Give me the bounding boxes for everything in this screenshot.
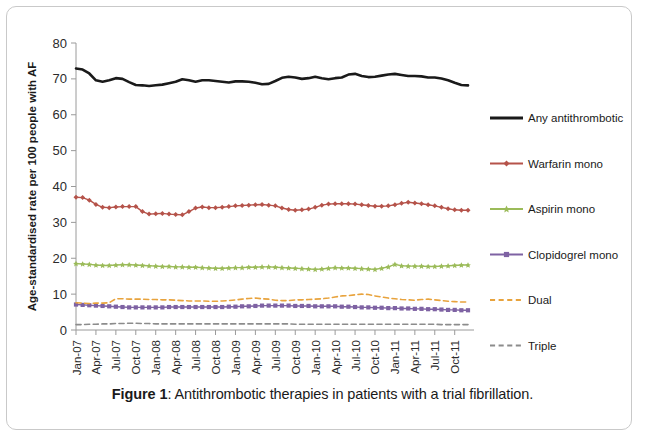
series-marker (273, 203, 278, 208)
series-marker (379, 204, 384, 209)
series-marker (213, 205, 218, 210)
series-marker (292, 265, 298, 271)
series-marker (86, 262, 92, 268)
series-marker (260, 304, 264, 308)
legend-marker (504, 252, 509, 257)
x-tick-label: Oct-08 (210, 340, 222, 375)
figure-caption-label: Figure 1 (112, 386, 168, 402)
series-marker (113, 262, 119, 268)
series-marker (412, 263, 418, 269)
series-marker (200, 204, 205, 209)
legend-label-aspirin-mono: Aspirin mono (528, 203, 595, 215)
legend-label-clopidogrel-mono: Clopidogrel mono (528, 249, 618, 261)
series-marker (180, 264, 186, 270)
series-marker (299, 266, 305, 272)
y-tick-label: 20 (53, 251, 67, 266)
series-marker (339, 201, 344, 206)
series-marker (74, 195, 79, 200)
series-marker (153, 263, 159, 269)
series-marker (459, 208, 464, 213)
y-tick-label: 10 (53, 287, 67, 302)
y-tick-label: 80 (53, 36, 67, 51)
series-marker (452, 207, 457, 212)
series-marker (100, 263, 106, 269)
series-marker (266, 264, 272, 270)
series-line-any-antithrombotic (76, 68, 468, 86)
x-tick-label: Jan-08 (150, 340, 162, 375)
series-marker (406, 200, 411, 205)
series-marker (107, 205, 112, 210)
series-marker (220, 305, 224, 309)
series-marker (140, 305, 144, 309)
series-marker (313, 304, 317, 308)
series-marker (306, 304, 310, 308)
series-marker (459, 262, 465, 268)
series-marker (147, 212, 152, 217)
series-marker (406, 306, 410, 310)
series-marker (207, 305, 211, 309)
series-marker (267, 304, 271, 308)
series-marker (426, 307, 430, 311)
series-marker (246, 203, 251, 208)
series-line-triple (76, 323, 468, 324)
x-tick-label: Jul-10 (350, 340, 362, 371)
x-tick-label: Apr-11 (409, 340, 421, 374)
series-marker (193, 305, 197, 309)
x-tick-label: Oct-07 (130, 340, 142, 375)
series-marker (154, 305, 158, 309)
series-marker (240, 203, 245, 208)
series-marker (153, 211, 158, 216)
series-marker (200, 305, 204, 309)
series-marker (233, 203, 238, 208)
series-marker (113, 204, 118, 209)
series-marker (293, 304, 297, 308)
series-marker (220, 205, 225, 210)
series-marker (146, 263, 152, 269)
series-marker (359, 202, 364, 207)
series-marker (326, 202, 331, 207)
series-marker (340, 305, 344, 309)
series-marker (186, 264, 192, 270)
x-tick-label: Apr-08 (170, 340, 182, 375)
series-marker (233, 305, 237, 309)
series-marker (273, 264, 279, 270)
x-tick-label: Jan-10 (310, 340, 322, 375)
series-marker (173, 212, 178, 217)
series-marker (392, 262, 398, 268)
series-marker (180, 212, 185, 217)
series-marker (313, 205, 318, 210)
series-marker (332, 265, 338, 271)
series-marker (160, 264, 166, 270)
series-marker (80, 195, 85, 200)
series-marker (107, 304, 111, 308)
series-marker (353, 305, 357, 309)
y-tick-label: 70 (53, 71, 67, 86)
series-marker (260, 202, 265, 207)
series-marker (226, 204, 231, 209)
series-marker (186, 209, 191, 214)
series-marker (273, 304, 277, 308)
series-marker (320, 304, 324, 308)
series-marker (372, 204, 377, 209)
legend-marker (503, 206, 510, 213)
series-marker (392, 202, 397, 207)
x-tick-label: Oct-10 (369, 340, 381, 375)
series-marker (286, 265, 292, 271)
y-tick-label: 0 (60, 323, 67, 338)
series-marker (353, 202, 358, 207)
x-tick-label: Apr-10 (330, 340, 342, 375)
series-marker (287, 304, 291, 308)
series-marker (300, 304, 304, 308)
series-marker (419, 263, 425, 269)
series-line-dual (76, 294, 468, 303)
series-marker (206, 205, 211, 210)
series-marker (160, 211, 165, 216)
series-marker (253, 202, 258, 207)
series-marker (199, 265, 205, 271)
series-marker (173, 264, 179, 270)
x-tick-label: Jul-09 (270, 340, 282, 371)
series-marker (405, 263, 411, 269)
series-marker (253, 264, 259, 270)
series-marker (319, 266, 325, 272)
series-marker (120, 204, 125, 209)
